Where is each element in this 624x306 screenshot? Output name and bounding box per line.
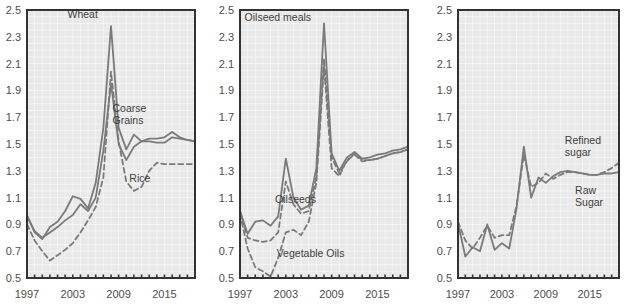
y-tick-label: 0.7 xyxy=(6,245,21,257)
y-tick-label: 1.1 xyxy=(219,192,234,204)
series-label: sugar xyxy=(565,146,592,158)
series-label: Vegetable Oils xyxy=(277,247,345,259)
series-label: Oilseeds xyxy=(275,193,316,205)
y-tick-label: 2.3 xyxy=(437,31,452,43)
panel-grains: 2.52.32.11.91.71.51.31.10.90.70.51997200… xyxy=(0,0,210,306)
panel-grains-svg: 2.52.32.11.91.71.51.31.10.90.70.51997200… xyxy=(0,0,210,306)
y-tick-label: 2.5 xyxy=(6,4,21,16)
series-label: Sugar xyxy=(575,196,604,208)
series-label: Raw xyxy=(575,184,596,196)
y-tick-label: 1.7 xyxy=(6,111,21,123)
y-tick-label: 0.5 xyxy=(6,272,21,284)
y-tick-label: 1.9 xyxy=(6,84,21,96)
x-tick-label: 2015 xyxy=(577,288,601,300)
y-tick-label: 2.1 xyxy=(437,58,452,70)
y-tick-label: 2.1 xyxy=(219,58,234,70)
x-tick-label: 2003 xyxy=(490,288,514,300)
x-tick-label: 2003 xyxy=(274,288,298,300)
y-tick-label: 0.7 xyxy=(219,245,234,257)
y-tick-label: 1.1 xyxy=(437,192,452,204)
x-tick-label: 2009 xyxy=(106,288,130,300)
y-tick-label: 1.3 xyxy=(219,165,234,177)
x-tick-label: 1997 xyxy=(15,288,39,300)
y-tick-label: 1.5 xyxy=(219,138,234,150)
y-tick-label: 0.9 xyxy=(437,218,452,230)
x-tick-label: 2015 xyxy=(152,288,176,300)
y-tick-label: 1.3 xyxy=(437,165,452,177)
x-tick-label: 2009 xyxy=(534,288,558,300)
series-label: Rice xyxy=(129,172,150,184)
y-tick-label: 1.3 xyxy=(6,165,21,177)
series-label: Coarse xyxy=(113,102,147,114)
x-tick-label: 2015 xyxy=(365,288,389,300)
y-tick-label: 2.5 xyxy=(437,4,452,16)
y-tick-label: 1.1 xyxy=(6,192,21,204)
y-tick-label: 1.5 xyxy=(6,138,21,150)
panel-oilseeds: 2.52.32.11.91.71.51.31.10.90.70.51997200… xyxy=(210,0,422,306)
panel-sugar-svg: 2.52.32.11.91.71.51.31.10.90.70.51997200… xyxy=(422,0,624,306)
y-tick-label: 0.7 xyxy=(437,245,452,257)
y-tick-label: 1.7 xyxy=(219,111,234,123)
y-tick-label: 2.5 xyxy=(219,4,234,16)
y-tick-label: 0.9 xyxy=(219,218,234,230)
x-tick-label: 1997 xyxy=(228,288,252,300)
charts-figure: 2.52.32.11.91.71.51.31.10.90.70.51997200… xyxy=(0,0,624,306)
x-tick-label: 1997 xyxy=(446,288,470,300)
series-label: Grains xyxy=(113,114,144,126)
panel-oilseeds-svg: 2.52.32.11.91.71.51.31.10.90.70.51997200… xyxy=(210,0,422,306)
panel-sugar: 2.52.32.11.91.71.51.31.10.90.70.51997200… xyxy=(422,0,624,306)
y-tick-label: 1.9 xyxy=(437,84,452,96)
y-tick-label: 1.7 xyxy=(437,111,452,123)
y-tick-label: 1.9 xyxy=(219,84,234,96)
x-tick-label: 2003 xyxy=(61,288,85,300)
y-tick-label: 2.3 xyxy=(219,31,234,43)
y-tick-label: 0.5 xyxy=(219,272,234,284)
series-label: Refined xyxy=(565,134,601,146)
x-tick-label: 2009 xyxy=(319,288,343,300)
y-tick-label: 0.5 xyxy=(437,272,452,284)
series-label: Oilseed meals xyxy=(245,11,312,23)
y-tick-label: 2.1 xyxy=(6,58,21,70)
y-tick-label: 0.9 xyxy=(6,218,21,230)
y-tick-label: 2.3 xyxy=(6,31,21,43)
y-tick-label: 1.5 xyxy=(437,138,452,150)
